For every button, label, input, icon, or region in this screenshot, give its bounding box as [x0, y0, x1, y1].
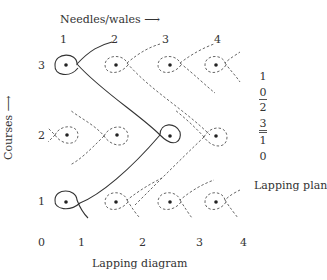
needle-dots: [64, 63, 218, 204]
solid-underlap-2-1: [55, 135, 160, 218]
solid-underlap-3-2: [77, 64, 180, 143]
solid-lap-course3: [55, 42, 112, 74]
